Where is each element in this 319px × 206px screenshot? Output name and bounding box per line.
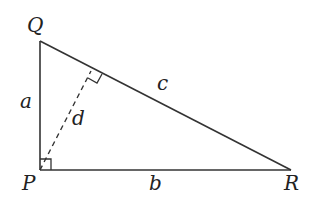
altitude-label-d: d (72, 106, 85, 130)
vertex-label-q: Q (27, 13, 43, 37)
side-label-c: c (157, 71, 168, 95)
vertex-label-r: R (283, 171, 299, 195)
side-label-b: b (149, 171, 162, 195)
vertex-label-p: P (21, 171, 36, 195)
right-triangle-diagram: Q P R a b c d (0, 0, 319, 206)
side-label-a: a (20, 89, 32, 113)
right-angle-marker-foot (88, 74, 102, 83)
